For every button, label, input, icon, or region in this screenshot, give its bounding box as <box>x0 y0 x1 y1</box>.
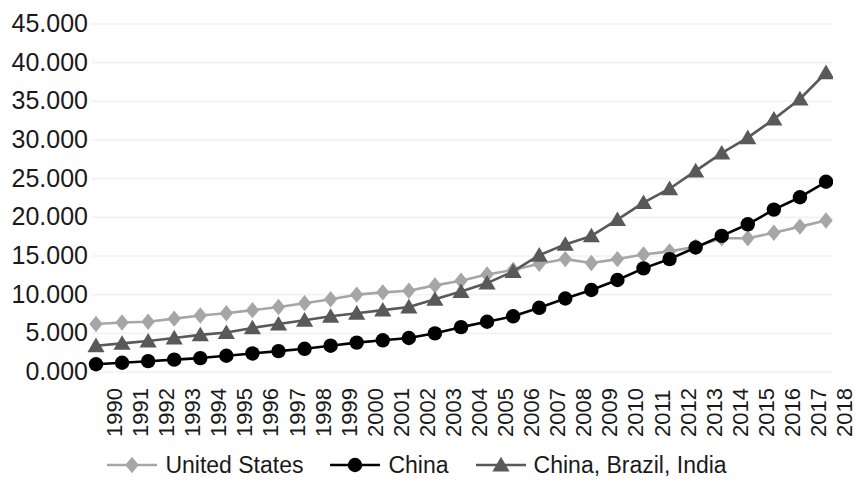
data-point-marker <box>402 331 416 345</box>
data-point-marker <box>115 356 129 370</box>
data-point-marker <box>89 357 103 371</box>
data-point-marker <box>376 333 390 347</box>
data-point-marker <box>584 283 598 297</box>
data-point-marker <box>793 190 807 204</box>
data-point-marker <box>428 326 442 340</box>
data-point-marker <box>126 457 139 473</box>
data-point-marker <box>141 354 155 368</box>
data-point-marker <box>819 212 832 228</box>
legend-label: China <box>388 454 448 477</box>
data-point-marker <box>609 211 626 226</box>
data-point-marker <box>167 352 181 366</box>
data-point-marker <box>741 217 755 231</box>
data-point-marker <box>687 163 704 178</box>
data-point-marker <box>89 316 102 332</box>
data-point-marker <box>767 202 781 216</box>
data-point-marker <box>297 342 311 356</box>
data-point-marker <box>585 255 598 271</box>
data-point-marker <box>350 335 364 349</box>
data-point-marker <box>193 351 207 365</box>
data-point-marker <box>741 230 754 246</box>
data-point-marker <box>350 286 363 302</box>
data-point-marker <box>661 181 678 196</box>
data-point-marker <box>817 65 833 80</box>
data-point-marker <box>662 252 676 266</box>
data-point-marker <box>428 277 441 293</box>
data-point-marker <box>635 194 652 209</box>
data-point-marker <box>194 307 207 323</box>
data-point-marker <box>558 291 572 305</box>
data-point-marker <box>454 320 468 334</box>
data-point-marker <box>611 251 624 267</box>
data-point-marker <box>532 301 546 315</box>
data-point-marker <box>220 305 233 321</box>
data-point-marker <box>559 251 572 267</box>
data-point-marker <box>271 344 285 358</box>
data-point-marker <box>376 284 389 300</box>
data-point-marker <box>324 291 337 307</box>
data-point-marker <box>246 302 259 318</box>
data-point-marker <box>819 175 833 189</box>
data-point-marker <box>767 225 780 241</box>
data-point-marker <box>115 314 128 330</box>
legend-marker-circle-icon <box>329 454 381 476</box>
series-line <box>96 73 826 346</box>
data-point-marker <box>713 145 730 160</box>
data-point-marker <box>583 228 600 243</box>
legend-marker-diamond-icon <box>106 454 158 476</box>
x-axis-tick-label: 2018 <box>834 388 856 437</box>
legend-item[interactable]: China, Brazil, India <box>475 454 727 477</box>
data-point-marker <box>610 273 624 287</box>
data-point-marker <box>141 314 154 330</box>
data-point-marker <box>688 240 702 254</box>
data-point-marker <box>219 349 233 363</box>
legend-label: China, Brazil, India <box>534 454 727 477</box>
data-point-marker <box>793 218 806 234</box>
data-point-marker <box>636 261 650 275</box>
data-point-marker <box>272 299 285 315</box>
data-point-marker <box>480 315 494 329</box>
data-point-marker <box>715 229 729 243</box>
data-point-marker <box>348 458 362 472</box>
data-point-marker <box>323 339 337 353</box>
legend-marker-triangle-icon <box>475 454 527 476</box>
data-point-marker <box>245 346 259 360</box>
legend-item[interactable]: China <box>329 454 448 477</box>
data-point-marker <box>167 310 180 326</box>
data-point-marker <box>506 309 520 323</box>
legend-label: United States <box>165 454 303 477</box>
data-point-marker <box>637 246 650 262</box>
chart-legend: United StatesChinaChina, Brazil, India <box>0 445 833 485</box>
data-point-marker <box>531 247 548 262</box>
data-point-marker <box>739 130 756 145</box>
legend-item[interactable]: United States <box>106 454 303 477</box>
data-point-marker <box>402 283 415 299</box>
data-point-marker <box>298 295 311 311</box>
